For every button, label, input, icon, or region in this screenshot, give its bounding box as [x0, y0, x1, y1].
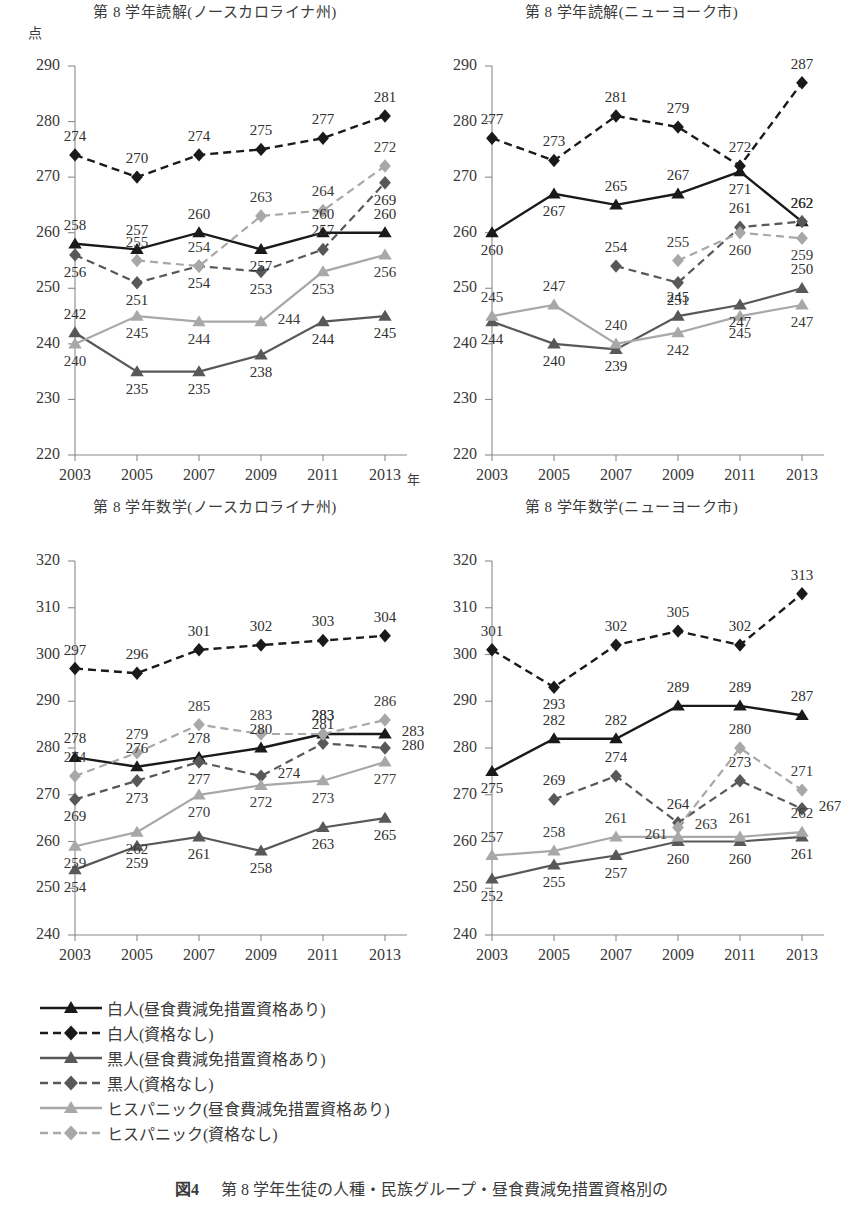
data-point-label: 301 — [472, 624, 512, 639]
data-point-marker — [795, 282, 808, 293]
y-tick-label: 220 — [437, 446, 477, 462]
y-tick-label: 260 — [437, 833, 477, 849]
data-point-label: 253 — [241, 282, 281, 297]
legend-item[interactable]: 白人(昼食費減免措置資格あり) — [40, 995, 640, 1020]
y-tick-label: 230 — [437, 390, 477, 406]
data-point-label: 282 — [596, 713, 636, 728]
data-point-label: 250 — [782, 262, 822, 277]
legend-item[interactable]: ヒスパニック(資格なし) — [40, 1120, 640, 1145]
y-tick-label: 240 — [437, 926, 477, 942]
data-point-label: 263 — [241, 190, 281, 205]
data-point-label: 240 — [55, 354, 95, 369]
y-tick-label: 220 — [20, 446, 60, 462]
data-point-label: 265 — [365, 828, 405, 843]
plot-area: 2402502602702802903003103202003200520072… — [0, 495, 430, 985]
legend-item-label: 白人(資格なし) — [107, 1021, 214, 1045]
data-point-label: 253 — [303, 282, 343, 297]
legend-item[interactable]: 白人(資格なし) — [40, 1020, 640, 1045]
figure-caption-number: 図4 — [175, 1181, 199, 1198]
data-point-marker — [130, 826, 143, 837]
data-point-label: 240 — [596, 318, 636, 333]
y-tick-label: 300 — [20, 646, 60, 662]
legend-marker-icon — [40, 1122, 102, 1144]
figure-caption-text: 第 8 学年生徒の人種・民族グループ・昼食費減免措置資格別の — [221, 1181, 668, 1198]
data-point-label: 254 — [55, 880, 95, 895]
legend-marker-icon — [40, 997, 102, 1019]
data-point-label: 273 — [534, 134, 574, 149]
data-point-label: 270 — [179, 805, 219, 820]
data-point-label: 258 — [55, 218, 95, 233]
data-point-label: 274 — [179, 129, 219, 144]
data-point-label: 269 — [55, 809, 95, 824]
data-point-label: 267 — [534, 204, 574, 219]
legend-item-label: ヒスパニック(昼食費減免措置資格あり) — [107, 1096, 390, 1120]
data-point-label: 261 — [636, 827, 676, 842]
y-tick-label: 240 — [20, 335, 60, 351]
plot-area: 2202302402502602702802902003200520072009… — [0, 0, 430, 490]
data-point-marker — [796, 76, 808, 89]
data-point-label: 274 — [55, 750, 95, 765]
data-point-marker — [734, 774, 746, 787]
legend-item[interactable]: 黒人(資格なし) — [40, 1070, 640, 1095]
data-point-marker — [192, 226, 205, 237]
x-tick-label: 2007 — [589, 467, 643, 483]
data-point-label: 302 — [241, 619, 281, 634]
y-tick-label: 250 — [437, 879, 477, 895]
y-tick-label: 260 — [437, 224, 477, 240]
data-point-label: 252 — [472, 889, 512, 904]
data-point-label: 301 — [179, 624, 219, 639]
chart-panel-reading-nyc: 第 8 学年読解(ニューヨーク市) 2202302402502602702802… — [420, 0, 843, 490]
series-line — [616, 222, 802, 283]
data-point-marker — [548, 154, 560, 167]
data-point-label: 262 — [782, 196, 822, 211]
y-tick-label: 270 — [437, 786, 477, 802]
data-point-label: 260 — [179, 207, 219, 222]
data-point-label: 272 — [241, 795, 281, 810]
data-point-label: 235 — [117, 382, 157, 397]
data-point-label: 274 — [596, 750, 636, 765]
data-point-label: 261 — [720, 811, 760, 826]
data-point-marker — [796, 232, 808, 245]
data-point-label: 254 — [179, 240, 219, 255]
data-point-label: 277 — [179, 772, 219, 787]
data-point-label: 296 — [117, 647, 157, 662]
data-point-label: 258 — [534, 825, 574, 840]
y-tick-label: 280 — [20, 113, 60, 129]
data-point-marker — [131, 254, 143, 267]
data-point-label: 272 — [365, 140, 405, 155]
data-point-label: 280 — [241, 722, 281, 737]
data-point-marker — [378, 310, 391, 321]
data-point-label: 255 — [534, 875, 574, 890]
y-tick-label: 260 — [20, 224, 60, 240]
data-point-label: 257 — [241, 259, 281, 274]
data-point-label: 278 — [55, 731, 95, 746]
data-point-label: 283 — [241, 708, 281, 723]
data-point-label: 303 — [303, 614, 343, 629]
data-point-marker — [69, 662, 81, 675]
data-point-marker — [796, 783, 808, 796]
data-point-label: 256 — [365, 265, 405, 280]
data-point-marker — [548, 680, 560, 693]
y-tick-label: 280 — [437, 739, 477, 755]
data-point-label: 287 — [782, 689, 822, 704]
data-point-marker — [131, 666, 143, 679]
chart-panel-math-nyc: 第 8 学年数学(ニューヨーク市) 2402502602702802903003… — [420, 495, 843, 985]
plot-svg — [420, 495, 843, 985]
y-tick-label: 250 — [20, 879, 60, 895]
legend-item[interactable]: 黒人(昼食費減免措置資格あり) — [40, 1045, 640, 1070]
data-point-label: 259 — [782, 248, 822, 263]
data-point-label: 271 — [720, 182, 760, 197]
data-point-label: 247 — [782, 315, 822, 330]
data-point-marker — [317, 131, 329, 144]
y-tick-label: 240 — [20, 926, 60, 942]
data-point-label: 267 — [658, 168, 698, 183]
data-point-marker — [734, 159, 746, 172]
legend-item[interactable]: ヒスパニック(昼食費減免措置資格あり) — [40, 1095, 640, 1120]
chart-legend: 白人(昼食費減免措置資格あり) 白人(資格なし) 黒人(昼食費減免措置資格あり)… — [40, 995, 640, 1145]
y-tick-label: 250 — [437, 279, 477, 295]
data-point-label: 242 — [658, 343, 698, 358]
y-tick-label: 300 — [437, 646, 477, 662]
x-axis-unit-label: 年 — [407, 469, 420, 488]
data-point-marker — [795, 299, 808, 310]
data-point-label: 244 — [303, 332, 343, 347]
